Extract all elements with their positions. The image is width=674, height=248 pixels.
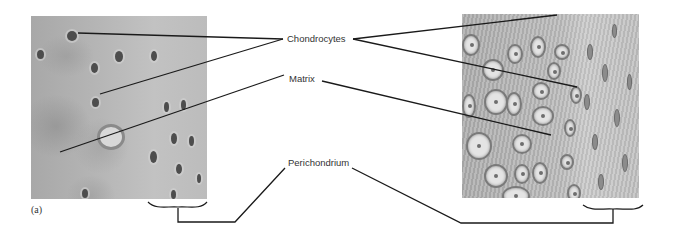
chondrocyte: [171, 190, 176, 199]
chondrocyte: [514, 164, 530, 184]
chondrocyte: [564, 119, 576, 137]
label-matrix: Matrix: [289, 74, 315, 84]
chondrocyte: [150, 151, 157, 163]
chondrocyte: [462, 94, 476, 118]
chondrocyte: [189, 136, 194, 146]
chondrocyte: [530, 36, 546, 58]
fibroblast: [614, 109, 620, 127]
chondrocyte: [484, 89, 508, 115]
fibroblast: [598, 174, 604, 190]
chondrocyte: [532, 106, 554, 126]
micrograph-left: [31, 16, 207, 199]
fibroblast: [612, 24, 617, 38]
chondrocyte: [560, 154, 574, 170]
illustration-right: [462, 14, 639, 198]
chondrocyte: [482, 59, 504, 81]
chondrocyte: [506, 92, 522, 116]
label-chondrocytes: Chondrocytes: [287, 34, 346, 44]
chondrocyte: [82, 189, 88, 198]
chondrocyte: [532, 82, 550, 100]
panel-label: (a): [31, 205, 42, 215]
fibroblast: [587, 44, 593, 60]
fibroblast: [592, 134, 598, 150]
chondrocyte: [484, 164, 508, 188]
left-brace: [148, 202, 207, 207]
fibroblast: [622, 154, 628, 172]
chondrocyte: [92, 98, 99, 107]
lacuna: [97, 124, 125, 150]
chondrocyte: [512, 134, 532, 154]
fibroblast: [584, 94, 590, 110]
chondrocyte: [532, 162, 548, 184]
label-perichondrium: Perichondrium: [288, 158, 349, 168]
chondrocyte: [462, 34, 480, 56]
chondrocyte: [151, 51, 157, 61]
fibroblast: [627, 74, 632, 90]
chondrocyte: [570, 86, 582, 104]
chondrocyte: [502, 186, 530, 198]
chondrocyte: [547, 62, 561, 80]
right-brace: [583, 205, 643, 209]
chondrocyte: [176, 164, 182, 174]
chondrocyte: [37, 50, 44, 59]
chondrocyte: [67, 31, 77, 41]
chondrocyte: [181, 100, 186, 110]
chondrocyte: [91, 63, 98, 73]
chondrocyte: [171, 133, 177, 144]
chondrocyte: [164, 102, 169, 112]
chondrocyte: [197, 174, 201, 183]
fibroblast: [602, 64, 608, 82]
chondrocyte: [554, 44, 570, 60]
chondrocyte: [567, 184, 581, 198]
chondrocyte: [115, 51, 123, 62]
chondrocyte: [466, 132, 492, 160]
chondrocyte: [507, 44, 523, 64]
